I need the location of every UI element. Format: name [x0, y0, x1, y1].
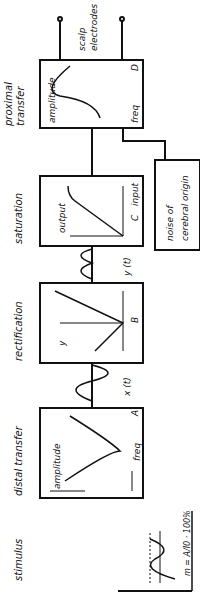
- rect-letter: B: [130, 317, 140, 323]
- proximal-title-1: proximal: [3, 82, 14, 127]
- prox-x-label: freq: [130, 105, 140, 123]
- rect-y-label: y: [57, 340, 67, 347]
- diagram: stimulus distal transfer rectification s…: [0, 0, 200, 601]
- electrodes-label-2: electrodes: [89, 3, 99, 51]
- stimulus-wave: [150, 539, 175, 579]
- electrodes-label-1: scalp: [77, 27, 87, 51]
- y-signal-label: y (t): [122, 257, 132, 277]
- block-diagram: stimulus distal transfer rectification s…: [0, 0, 200, 601]
- prox-letter: D: [130, 64, 140, 71]
- electrode-terminal: [58, 17, 62, 21]
- prox-y-label: amplitude: [47, 77, 57, 123]
- rectification-title: rectification: [13, 301, 24, 361]
- sat-x-label: input: [130, 182, 140, 206]
- sat-y-label: output: [57, 203, 67, 233]
- stimulus-formula: m = A/I0 · 100%: [183, 510, 192, 576]
- noise-label-1: noise of: [165, 204, 175, 241]
- saturation-title: saturation: [13, 193, 24, 244]
- noise-box: [155, 160, 200, 250]
- proximal-title-2: transfer: [15, 86, 26, 126]
- distal-title: distal transfer: [13, 425, 24, 496]
- sat-letter: C: [130, 214, 140, 221]
- noise-label-2: cerebral origin: [180, 175, 190, 241]
- distal-x-label: freq: [132, 443, 142, 461]
- distal-letter: A: [130, 410, 140, 417]
- distal-y-label: amplitude: [52, 443, 62, 489]
- stimulus-title: stimulus: [13, 539, 24, 581]
- electrode-terminal: [120, 17, 124, 21]
- x-signal-label: x (t): [122, 377, 132, 397]
